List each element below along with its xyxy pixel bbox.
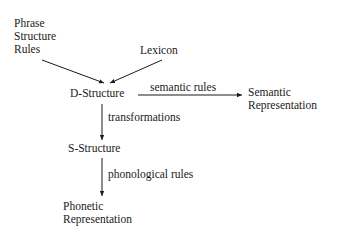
node-label-line: Representation: [63, 213, 132, 226]
node-phonetic-representation: Phonetic Representation: [63, 200, 132, 226]
edge-label-semantic-rules: semantic rules: [150, 81, 216, 94]
node-label-line: Semantic: [248, 86, 317, 99]
node-s-structure: S-Structure: [68, 142, 120, 155]
node-d-structure: D-Structure: [70, 87, 124, 100]
node-lexicon: Lexicon: [140, 44, 178, 57]
node-label-line: Representation: [248, 99, 317, 112]
arrow-psr-to-dstructure: [42, 60, 104, 83]
node-semantic-representation: Semantic Representation: [248, 86, 317, 112]
arrow-lexicon-to-dstructure: [110, 60, 162, 83]
node-label-line: Phonetic: [63, 200, 132, 213]
edge-label-phonological-rules: phonological rules: [108, 168, 193, 181]
node-phrase-structure-rules: Phrase Structure Rules: [14, 17, 56, 56]
edge-label-transformations: transformations: [108, 111, 180, 124]
node-label-line: Rules: [14, 43, 56, 56]
node-label-line: Structure: [14, 30, 56, 43]
node-label-line: Phrase: [14, 17, 56, 30]
